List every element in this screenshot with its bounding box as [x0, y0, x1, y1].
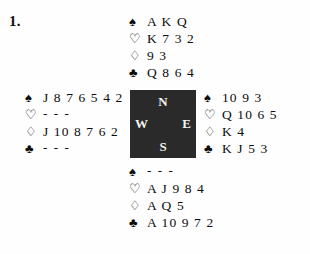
north-heart-row: ♡ K 7 3 2	[129, 30, 195, 47]
east-diamond-cards: K 4	[217, 124, 245, 139]
west-diamond-row: ♢ J 10 8 7 6 2	[25, 123, 123, 140]
south-diamond-cards: A Q 5	[142, 198, 185, 213]
heart-icon: ♡	[204, 108, 217, 121]
diamond-icon: ♢	[204, 125, 217, 138]
compass-label-north: N	[130, 95, 196, 108]
south-club-row: ♣ A 10 9 7 2	[129, 214, 214, 231]
north-heart-cards: K 7 3 2	[142, 31, 195, 46]
compass-label-east: E	[182, 117, 191, 130]
problem-number: 1.	[9, 13, 21, 30]
east-heart-cards: Q 10 6 5	[217, 107, 278, 122]
east-spade-row: ♠ 10 9 3	[204, 89, 278, 106]
west-spade-cards: J 8 7 6 5 4 2	[38, 90, 123, 105]
north-spade-cards: A K Q	[142, 14, 188, 29]
heart-icon: ♡	[25, 108, 38, 121]
east-diamond-row: ♢ K 4	[204, 123, 278, 140]
west-club-row: ♣ - - -	[25, 140, 123, 157]
south-club-cards: A 10 9 7 2	[142, 215, 214, 230]
diamond-icon: ♢	[129, 49, 142, 62]
spade-icon: ♠	[25, 91, 38, 104]
south-spade-cards: - - -	[142, 163, 175, 178]
south-hand: ♠ - - - ♡ A J 9 8 4 ♢ A Q 5 ♣ A 10 9 7 2	[129, 163, 214, 231]
east-club-cards: K J 5 3	[217, 141, 268, 156]
diamond-icon: ♢	[129, 199, 142, 212]
west-heart-row: ♡ - - -	[25, 106, 123, 123]
heart-icon: ♡	[129, 182, 142, 195]
east-spade-cards: 10 9 3	[217, 90, 262, 105]
east-hand: ♠ 10 9 3 ♡ Q 10 6 5 ♢ K 4 ♣ K J 5 3	[204, 89, 278, 157]
east-heart-row: ♡ Q 10 6 5	[204, 106, 278, 123]
spade-icon: ♠	[129, 165, 142, 178]
east-club-row: ♣ K J 5 3	[204, 140, 278, 157]
compass-label-south: S	[130, 140, 196, 153]
south-heart-row: ♡ A J 9 8 4	[129, 180, 214, 197]
south-diamond-row: ♢ A Q 5	[129, 197, 214, 214]
north-club-cards: Q 8 6 4	[142, 65, 195, 80]
club-icon: ♣	[25, 142, 38, 155]
club-icon: ♣	[204, 142, 217, 155]
compass-box: N W E S	[130, 90, 196, 158]
bridge-deal-figure: 1. ♠ A K Q ♡ K 7 3 2 ♢ 9 3 ♣ Q 8 6 4 ♠ J…	[0, 0, 310, 254]
north-diamond-row: ♢ 9 3	[129, 47, 195, 64]
west-heart-cards: - - -	[38, 106, 71, 121]
west-hand: ♠ J 8 7 6 5 4 2 ♡ - - - ♢ J 10 8 7 6 2 ♣…	[25, 89, 123, 157]
south-heart-cards: A J 9 8 4	[142, 181, 205, 196]
compass-label-west: W	[135, 117, 148, 130]
north-diamond-cards: 9 3	[142, 48, 167, 63]
club-icon: ♣	[129, 66, 142, 79]
spade-icon: ♠	[204, 91, 217, 104]
diamond-icon: ♢	[25, 125, 38, 138]
spade-icon: ♠	[129, 15, 142, 28]
north-hand: ♠ A K Q ♡ K 7 3 2 ♢ 9 3 ♣ Q 8 6 4	[129, 13, 195, 81]
north-club-row: ♣ Q 8 6 4	[129, 64, 195, 81]
west-spade-row: ♠ J 8 7 6 5 4 2	[25, 89, 123, 106]
west-club-cards: - - -	[38, 140, 71, 155]
west-diamond-cards: J 10 8 7 6 2	[38, 124, 119, 139]
heart-icon: ♡	[129, 32, 142, 45]
north-spade-row: ♠ A K Q	[129, 13, 195, 30]
south-spade-row: ♠ - - -	[129, 163, 214, 180]
club-icon: ♣	[129, 216, 142, 229]
